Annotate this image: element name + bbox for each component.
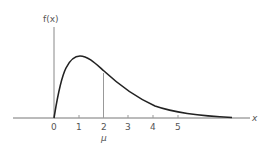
tick-label-4: 4	[150, 122, 156, 132]
tick-label-3: 3	[125, 122, 131, 132]
tick-label-5: 5	[175, 122, 181, 132]
density-curve	[54, 56, 232, 118]
tick-labels: 0 1 2 3 4 5	[51, 122, 181, 132]
tick-label-0: 0	[51, 122, 57, 132]
density-diagram: f(x) x 0 1 2 3 4 5 μ	[0, 0, 266, 147]
mu-label: μ	[100, 133, 107, 143]
y-axis-label: f(x)	[43, 14, 59, 24]
x-axis-label: x	[251, 113, 258, 123]
tick-label-2: 2	[101, 122, 107, 132]
tick-label-1: 1	[76, 122, 82, 132]
